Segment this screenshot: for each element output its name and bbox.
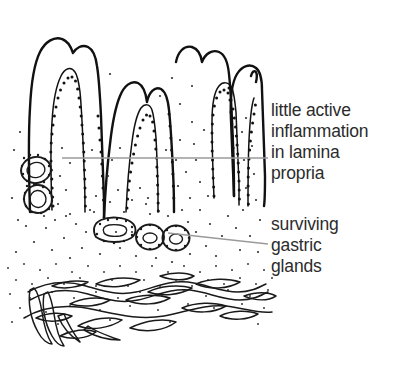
annotation-surviving-gastric-glands: surviving gastric glands (271, 214, 404, 277)
histology-drawing (0, 0, 404, 371)
annotation-little-active-inflammation: little active inflammation in lamina pro… (271, 100, 404, 184)
histology-figure: little active inflammation in lamina pro… (0, 0, 404, 371)
